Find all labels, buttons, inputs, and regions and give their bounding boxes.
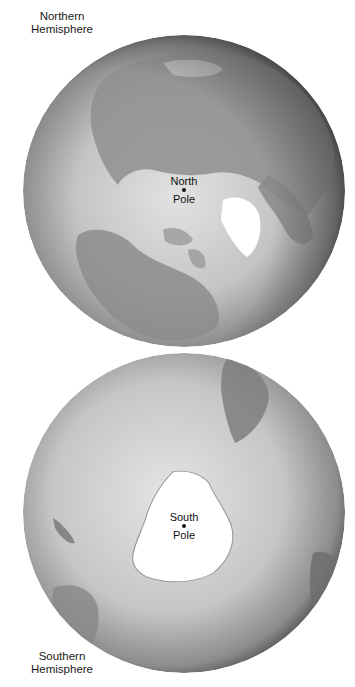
northern-hemisphere-caption: Northern Hemisphere [22, 10, 102, 35]
north-pole-label: North Pole [159, 175, 209, 205]
southern-hemisphere-globe: South Pole [23, 353, 345, 673]
north-pole-marker [182, 188, 186, 192]
south-pole-line1: South [159, 511, 209, 523]
north-pole-line1: North [159, 175, 209, 187]
south-pole-label: South Pole [159, 511, 209, 541]
southern-caption-line2: Hemisphere [22, 663, 102, 676]
southern-caption-line1: Southern [22, 650, 102, 663]
south-pole-marker [182, 524, 186, 528]
northern-caption-line1: Northern [22, 10, 102, 23]
northern-hemisphere-globe: North Pole [23, 35, 345, 347]
north-pole-line2: Pole [159, 193, 209, 205]
northern-caption-line2: Hemisphere [22, 23, 102, 36]
africa-landmass [310, 552, 343, 614]
australia-landmass [51, 585, 99, 658]
southern-hemisphere-caption: Southern Hemisphere [22, 650, 102, 675]
south-pole-line2: Pole [159, 529, 209, 541]
